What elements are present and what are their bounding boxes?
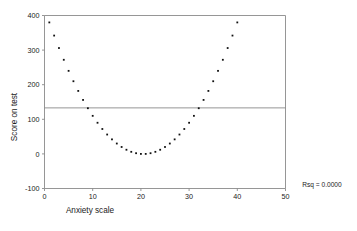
data-point bbox=[232, 35, 234, 37]
data-point bbox=[222, 59, 224, 61]
data-point bbox=[126, 149, 128, 151]
data-point bbox=[53, 35, 55, 37]
data-point bbox=[73, 80, 75, 82]
y-axis-ticks: -1000100200300400 bbox=[25, 11, 44, 193]
data-point bbox=[101, 128, 103, 130]
y-tick-label: 400 bbox=[28, 11, 40, 20]
data-point bbox=[169, 143, 171, 145]
x-tick-label: 20 bbox=[137, 192, 145, 201]
data-point bbox=[183, 128, 185, 130]
data-point bbox=[203, 99, 205, 101]
data-point bbox=[87, 107, 89, 109]
data-point bbox=[198, 107, 200, 109]
plot-canvas: -1000100200300400 01020304050 Score on t… bbox=[0, 0, 357, 231]
y-axis-title: Score on test bbox=[10, 92, 19, 141]
data-point bbox=[145, 153, 147, 155]
data-point bbox=[164, 146, 166, 148]
x-axis-title: Anxiety scale bbox=[66, 206, 115, 215]
y-tick-label: -100 bbox=[25, 184, 39, 193]
data-point bbox=[82, 99, 84, 101]
data-point bbox=[140, 153, 142, 155]
data-point bbox=[77, 90, 79, 92]
y-tick-label: 300 bbox=[28, 46, 40, 55]
data-point bbox=[130, 151, 132, 153]
data-point bbox=[48, 22, 50, 24]
data-point bbox=[92, 115, 94, 117]
data-point bbox=[212, 80, 214, 82]
data-point bbox=[63, 59, 65, 61]
data-point bbox=[150, 152, 152, 154]
data-point bbox=[188, 122, 190, 124]
data-point bbox=[97, 122, 99, 124]
data-point bbox=[193, 115, 195, 117]
data-point bbox=[179, 134, 181, 136]
data-point bbox=[58, 47, 60, 49]
plot-frame bbox=[45, 16, 286, 189]
data-point bbox=[174, 138, 176, 140]
x-tick-label: 50 bbox=[282, 192, 290, 201]
data-point bbox=[135, 152, 137, 154]
data-point bbox=[111, 138, 113, 140]
data-point bbox=[227, 47, 229, 49]
data-point-series bbox=[48, 22, 238, 155]
data-point bbox=[207, 90, 209, 92]
data-point bbox=[68, 70, 70, 72]
x-tick-label: 10 bbox=[89, 192, 97, 201]
x-tick-label: 30 bbox=[185, 192, 193, 201]
data-point bbox=[121, 146, 123, 148]
y-tick-label: 0 bbox=[36, 150, 40, 159]
data-point bbox=[116, 143, 118, 145]
x-tick-label: 0 bbox=[43, 192, 47, 201]
y-tick-label: 200 bbox=[28, 80, 40, 89]
data-point bbox=[159, 149, 161, 151]
scatter-plot-figure: -1000100200300400 01020304050 Score on t… bbox=[0, 0, 357, 231]
data-point bbox=[236, 22, 238, 24]
x-axis-ticks: 01020304050 bbox=[43, 189, 290, 202]
data-point bbox=[154, 151, 156, 153]
data-point bbox=[106, 134, 108, 136]
x-tick-label: 40 bbox=[233, 192, 241, 201]
rsq-annotation: Rsq = 0.0000 bbox=[302, 181, 342, 189]
data-point bbox=[217, 70, 219, 72]
y-tick-label: 100 bbox=[28, 115, 40, 124]
